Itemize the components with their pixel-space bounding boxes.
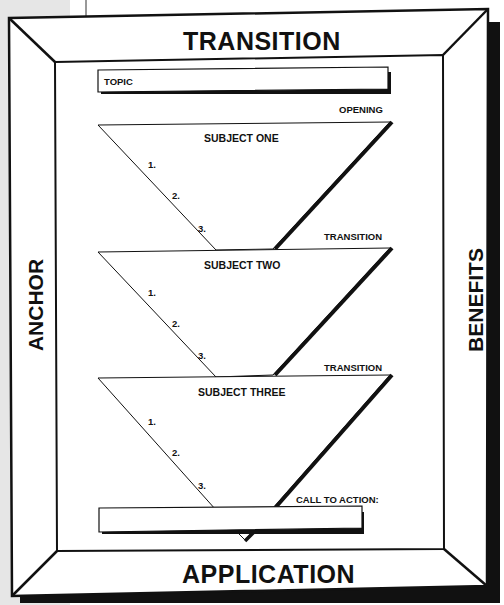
subject-two-point-3: 3. [198,350,206,361]
subject-two-title: SUBJECT TWO [204,259,280,271]
frame-right-label: BENEFITS [464,248,488,352]
opening-label: OPENING [339,104,383,115]
subject-three-title: SUBJECT THREE [198,386,286,398]
transition-label-1: TRANSITION [324,231,382,242]
subject-one-point-1: 1. [148,159,156,170]
subject-two-point-1: 1. [148,287,156,298]
frame-bottom-label: APPLICATION [182,560,355,589]
frame-left-label: ANCHOR [24,259,48,351]
call-to-action-label: CALL TO ACTION: [296,494,379,505]
subject-three-point-1: 1. [148,416,156,427]
subject-two-point-2: 2. [172,318,180,329]
speech-outline-frame [0,0,504,605]
subject-one-point-3: 3. [198,223,206,234]
topic-label: TOPIC [104,76,133,87]
subject-three-point-3: 3. [198,480,206,491]
frame-top-label: TRANSITION [183,27,341,56]
transition-label-2: TRANSITION [324,362,382,373]
subject-three-point-2: 2. [172,447,180,458]
subject-one-title: SUBJECT ONE [204,132,279,144]
subject-one-point-2: 2. [172,190,180,201]
